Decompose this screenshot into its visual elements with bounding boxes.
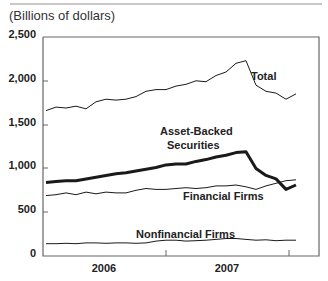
series-asset-backed (46, 152, 296, 190)
label-abs-line1: Asset-Backed (160, 125, 233, 137)
line-chart: Total Asset-Backed Securities Financial … (0, 0, 328, 281)
label-nonfinancial-firms: Nonfinancial Firms (136, 228, 235, 240)
label-abs-line2: Securities (167, 139, 220, 151)
series-total (46, 61, 296, 111)
label-total: Total (251, 70, 276, 82)
series-layer (46, 61, 296, 244)
x-tick-marks (166, 250, 289, 256)
label-financial-firms: Financial Firms (183, 190, 264, 202)
y-tick-marks (43, 81, 48, 212)
